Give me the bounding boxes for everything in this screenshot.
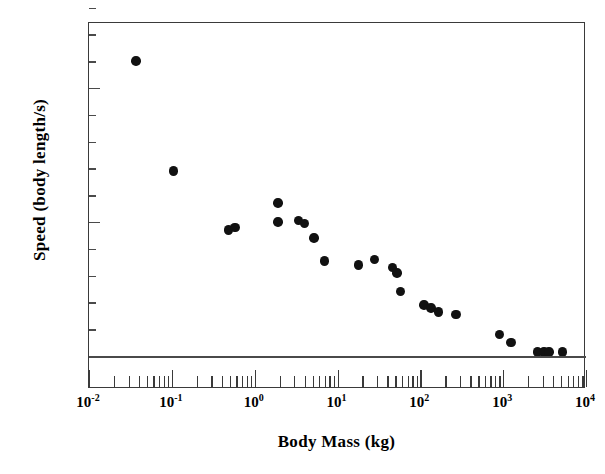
y-axis-minor-tick [89,61,96,62]
x-axis-minor-tick [543,376,544,387]
x-axis-minor-tick [417,376,418,387]
x-axis-minor-tick [490,376,491,387]
y-axis-minor-tick [89,168,96,169]
x-axis-minor-tick [114,376,115,387]
x-axis-minor-tick [445,376,446,387]
x-axis-tick-label: 10-2 [76,394,99,411]
zero-baseline [89,356,586,358]
x-axis-minor-tick [578,376,579,387]
x-axis-minor-tick [313,376,314,387]
data-point [320,256,330,266]
scatter-plot-figure: 050100 10-210-1100101102103104 Speed (bo… [0,0,605,474]
data-point [434,307,444,317]
x-axis-major-tick [503,370,504,387]
x-axis-minor-tick [395,376,396,387]
x-axis-minor-tick [280,376,281,387]
data-point [392,268,402,278]
x-axis-minor-tick [387,376,388,387]
data-point [370,255,380,265]
x-axis-tick-label: 101 [327,394,347,411]
x-axis-minor-tick [325,376,326,387]
x-axis-tick-label: 100 [244,394,264,411]
x-axis-tick-label: 103 [492,394,512,411]
data-point-layer [89,23,584,387]
x-axis-tick-label: 102 [409,394,429,411]
x-axis-tick-label: 10-1 [159,394,182,411]
data-point [300,219,310,229]
x-axis-minor-tick [470,376,471,387]
x-axis-title: Body Mass (kg) [88,432,585,452]
x-axis-minor-tick [211,376,212,387]
data-point [230,223,240,233]
x-axis-minor-tick [412,376,413,387]
x-axis-minor-tick [362,376,363,387]
y-axis-minor-tick [89,329,96,330]
x-axis-minor-tick [236,376,237,387]
y-axis-major-tick [89,222,100,223]
x-axis-minor-tick [230,376,231,387]
y-axis-minor-tick [89,302,96,303]
x-axis-minor-tick [334,376,335,387]
x-axis-major-tick [586,370,587,387]
x-axis-minor-tick [499,376,500,387]
x-axis-minor-tick [568,376,569,387]
x-axis-minor-tick [582,376,583,387]
x-axis-minor-tick [485,376,486,387]
x-axis-minor-tick [478,376,479,387]
x-axis-minor-tick [329,376,330,387]
x-axis-minor-tick [242,376,243,387]
x-axis-minor-tick [159,376,160,387]
y-axis-major-tick [89,356,100,357]
y-axis-minor-tick [89,142,96,143]
x-axis-minor-tick [294,376,295,387]
x-axis-minor-tick [402,376,403,387]
x-axis-major-tick [338,370,339,387]
data-point [309,233,319,243]
x-axis-minor-tick [528,376,529,387]
x-axis-minor-tick [147,376,148,387]
x-axis-minor-tick [129,376,130,387]
data-point [354,260,364,270]
x-axis-minor-tick [164,376,165,387]
data-point [273,217,283,227]
y-axis-minor-tick [89,195,96,196]
x-axis-minor-tick [460,376,461,387]
data-point [131,56,141,66]
y-axis-minor-tick [89,276,96,277]
x-axis-minor-tick [495,376,496,387]
data-point [506,338,516,348]
x-axis-minor-tick [408,376,409,387]
x-axis-minor-tick [197,376,198,387]
x-axis-major-tick [420,370,421,387]
y-axis-title: Speed (body length/s) [30,0,50,360]
x-axis-minor-tick [251,376,252,387]
x-axis-minor-tick [153,376,154,387]
x-axis-major-tick [255,370,256,387]
x-axis-major-tick [89,370,90,387]
x-axis-minor-tick [573,376,574,387]
x-axis-minor-tick [139,376,140,387]
y-axis-minor-tick [89,34,96,35]
x-axis-minor-tick [561,376,562,387]
plot-frame [88,22,585,388]
x-axis-minor-tick [168,376,169,387]
data-point [495,330,505,340]
y-axis-minor-tick [89,249,96,250]
x-axis-minor-tick [377,376,378,387]
data-point [169,166,179,176]
y-axis-major-tick [89,88,100,89]
x-axis-minor-tick [247,376,248,387]
data-point [451,310,461,320]
data-point [273,198,283,208]
y-axis-minor-tick [89,8,96,9]
x-axis-minor-tick [319,376,320,387]
x-axis-minor-tick [222,376,223,387]
data-point [396,287,406,297]
x-axis-minor-tick [553,376,554,387]
x-axis-minor-tick [305,376,306,387]
x-axis-tick-label: 104 [575,394,595,411]
y-axis-minor-tick [89,115,96,116]
x-axis-major-tick [172,370,173,387]
